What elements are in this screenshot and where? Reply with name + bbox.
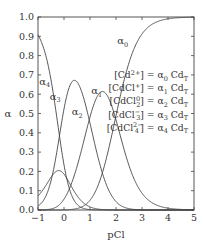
- alpha-0-label: α0: [117, 35, 128, 49]
- y-tick-label: 0.9: [19, 31, 34, 42]
- speciation-chart: −1012345 0.00.10.20.30.40.50.60.70.80.91…: [0, 0, 204, 248]
- legend: [Cd2+] = α0 CdT[CdCl+] = α1 CdT[CdCl02] …: [107, 69, 189, 136]
- legend-entry: [CdCl02] = α2 CdT: [110, 95, 189, 109]
- y-tick-label: 0.3: [19, 146, 34, 157]
- y-tick-label: 0.1: [19, 185, 34, 196]
- x-tick-label: 0: [61, 212, 67, 223]
- y-axis-label: α: [5, 108, 12, 119]
- x-tick-label: 3: [139, 212, 145, 223]
- y-tick-label: 0.0: [19, 204, 34, 215]
- y-tick-label: 0.7: [19, 69, 34, 80]
- alpha-3-curve: [38, 171, 194, 210]
- x-tick-label: 1: [87, 212, 93, 223]
- x-tick-label: 4: [165, 212, 171, 223]
- x-axis-label: pCl: [107, 229, 124, 240]
- y-tick-label: 0.8: [19, 50, 34, 61]
- alpha-4-label: α4: [39, 76, 50, 90]
- y-tick-label: 0.2: [19, 166, 34, 177]
- y-tick-label: 0.6: [19, 89, 34, 100]
- alpha-3-label: α3: [50, 91, 61, 105]
- y-tick-label: 0.4: [19, 127, 34, 138]
- legend-entry: [CdCl2−4] = α4 CdT: [107, 121, 189, 135]
- x-tick-label: 5: [191, 212, 197, 223]
- x-tick-label: 2: [113, 212, 119, 223]
- x-axis-ticks: −1012345: [31, 17, 197, 223]
- y-tick-label: 0.5: [19, 108, 34, 119]
- legend-entry: [Cd2+] = α0 CdT: [114, 69, 188, 83]
- legend-entry: [CdCl−3] = α3 CdT: [108, 108, 188, 122]
- alpha-2-label: α2: [72, 106, 83, 120]
- y-tick-label: 1.0: [19, 11, 34, 22]
